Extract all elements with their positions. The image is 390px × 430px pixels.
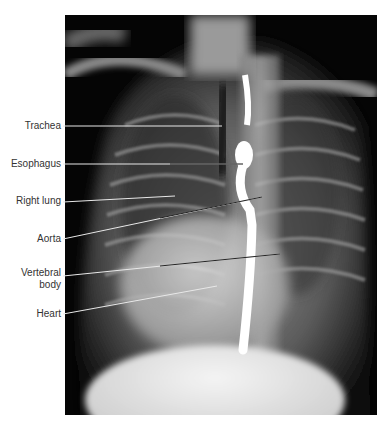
- leader-line-vertebral-body: [63, 254, 280, 276]
- label-vertebral-line1: Vertebral: [21, 267, 61, 279]
- xray-figure: Trachea Esophagus Right lung Aorta Verte…: [0, 0, 390, 430]
- label-heart: Heart: [37, 308, 61, 320]
- label-aorta: Aorta: [37, 233, 61, 245]
- leader-lines: [0, 0, 390, 430]
- label-vertebral-line2: body: [21, 279, 61, 291]
- leader-line-right-lung: [63, 196, 175, 202]
- label-right-lung: Right lung: [16, 195, 61, 207]
- leader-line-heart: [63, 286, 217, 314]
- label-vertebral-body: Vertebral body: [21, 267, 61, 291]
- label-esophagus: Esophagus: [11, 158, 61, 170]
- leader-line-aorta: [63, 197, 262, 239]
- label-trachea: Trachea: [25, 120, 61, 132]
